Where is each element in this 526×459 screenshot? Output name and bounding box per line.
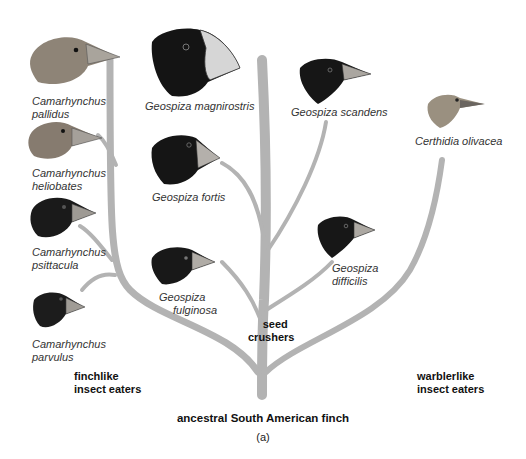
bird-c-parvulus-icon: [33, 293, 85, 328]
bird-g-fortis-icon: [152, 135, 221, 184]
bird-g-scandens-icon: [300, 59, 371, 104]
bird-c-psittacula-icon: [30, 198, 96, 237]
label-c-psittacula: Camarhynchus psittacula: [32, 246, 106, 272]
label-g-magnirostris: Geospiza magnirostris: [145, 100, 254, 113]
label-g-scandens: Geospiza scandens: [291, 106, 388, 119]
group-label-seed-crushers: seed crushers: [248, 318, 294, 344]
label-g-difficilis: Geospiza difficilis: [332, 262, 378, 288]
label-c-olivacea: Certhidia olivacea: [415, 135, 502, 148]
bird-g-fulginosa-icon: [151, 247, 215, 284]
figure-title: ancestral South American finch: [0, 412, 526, 425]
label-g-fulginosa: Geospiza fulginosa: [159, 291, 217, 317]
bird-c-pallidus-icon: [30, 37, 120, 84]
label-c-heliobates: Camarhynchus heliobates: [32, 167, 106, 193]
bird-g-difficilis-icon: [318, 217, 375, 258]
group-label-finchlike: finchlike insect eaters: [74, 370, 141, 396]
panel-label: (a): [0, 431, 526, 443]
label-c-pallidus: Camarhynchus pallidus: [32, 95, 106, 121]
label-g-fortis: Geospiza fortis: [152, 191, 225, 204]
bird-c-olivacea-icon: [428, 95, 486, 128]
label-c-parvulus: Camarhynchus parvulus: [32, 338, 106, 364]
group-label-warblerlike: warblerlike insect eaters: [417, 370, 484, 396]
finch-phylogeny-diagram: Camarhynchus pallidus Camarhynchus helio…: [0, 0, 526, 459]
bird-g-magnirostris-icon: [152, 29, 240, 97]
bird-c-heliobates-icon: [28, 122, 102, 159]
